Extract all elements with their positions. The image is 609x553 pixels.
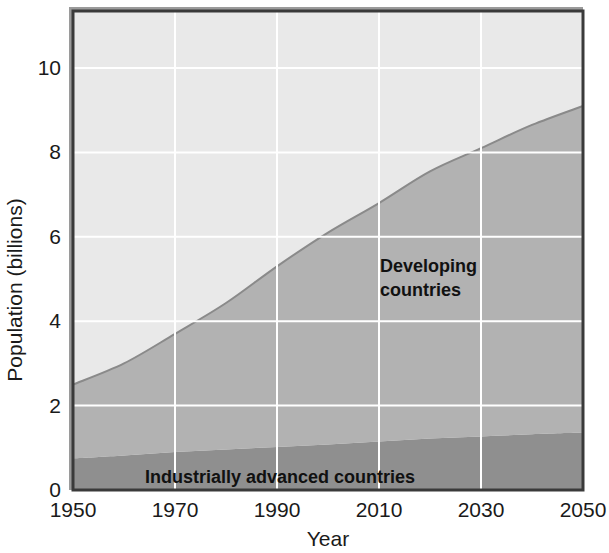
x-tick-2050: 2050 bbox=[560, 498, 607, 521]
y-axis-title: Population (billions) bbox=[3, 198, 26, 381]
developing-countries-label-line1: Developing bbox=[380, 256, 477, 276]
x-tick-2030: 2030 bbox=[458, 498, 505, 521]
industrially-advanced-countries-label: Industrially advanced countries bbox=[145, 467, 415, 487]
x-tick-1970: 1970 bbox=[152, 498, 199, 521]
y-tick-6: 6 bbox=[49, 225, 61, 248]
y-tick-2: 2 bbox=[49, 394, 61, 417]
y-tick-10: 10 bbox=[38, 56, 61, 79]
chart-canvas: 0246810 195019701990201020302050 Populat… bbox=[0, 0, 609, 553]
x-tick-2010: 2010 bbox=[356, 498, 403, 521]
population-area-chart: 0246810 195019701990201020302050 Populat… bbox=[0, 0, 609, 553]
x-tick-1950: 1950 bbox=[50, 498, 97, 521]
developing-countries-label-line2: countries bbox=[380, 280, 461, 300]
x-tick-1990: 1990 bbox=[254, 498, 301, 521]
x-axis-tick-labels: 195019701990201020302050 bbox=[50, 498, 607, 521]
x-axis-title: Year bbox=[307, 527, 349, 550]
y-tick-4: 4 bbox=[49, 309, 61, 332]
y-axis-tick-labels: 0246810 bbox=[38, 56, 62, 501]
y-tick-8: 8 bbox=[49, 140, 61, 163]
